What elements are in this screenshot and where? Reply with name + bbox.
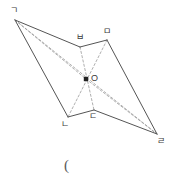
- edge-r-d: [94, 110, 157, 134]
- vertex-dots-group: [84, 77, 88, 81]
- vertex-label-g: ㄱ: [10, 6, 18, 15]
- edge-b-m: [80, 40, 107, 47]
- segment-g-o: [15, 20, 86, 79]
- vertex-label-n: ㄴ: [61, 120, 69, 129]
- vertex-label-b: ㅂ: [76, 33, 84, 42]
- center-point-dot: [84, 77, 88, 81]
- vertex-label-d: ㄷ: [89, 112, 97, 121]
- caption-paren: (: [64, 158, 69, 173]
- segment-o-r: [86, 79, 157, 134]
- vertex-label-r: ㄹ: [157, 137, 165, 146]
- vertex-label-m: ㅁ: [103, 27, 111, 36]
- figure-canvas: [0, 0, 182, 185]
- geometry-figure: ㄱㅂㅁㄹㄷㄴO (: [0, 0, 182, 185]
- edge-g-b: [15, 20, 80, 47]
- edge-m-r: [107, 40, 157, 134]
- vertex-label-o: O: [91, 74, 98, 83]
- edge-n-g: [15, 20, 68, 117]
